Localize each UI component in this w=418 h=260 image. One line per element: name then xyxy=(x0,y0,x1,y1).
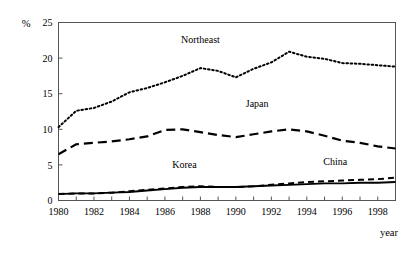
series-label-korea: Korea xyxy=(172,159,197,170)
chart-container: 0510152025198019821984198619881990199219… xyxy=(0,0,418,260)
y-axis-tick-label: 10 xyxy=(43,124,53,135)
series-line-northeast xyxy=(59,52,396,127)
x-axis-tick-label: 1982 xyxy=(84,206,104,217)
y-axis-tick-label: 0 xyxy=(48,195,53,206)
x-axis-tick-label: 1992 xyxy=(261,206,281,217)
line-chart: 0510152025198019821984198619881990199219… xyxy=(0,0,418,260)
x-axis-tick-label: 1994 xyxy=(297,206,317,217)
x-axis-tick-label: 1990 xyxy=(226,206,246,217)
x-axis-tick-label: 1988 xyxy=(190,206,210,217)
series-label-northeast: Northeast xyxy=(181,34,220,45)
series-line-china xyxy=(59,178,396,194)
series-line-korea xyxy=(59,182,396,194)
y-axis-tick-label: 25 xyxy=(43,17,53,28)
x-axis-tick-label: 1996 xyxy=(332,206,352,217)
y-axis-tick-label: 15 xyxy=(43,88,53,99)
x-axis-tick-label: 1986 xyxy=(155,206,175,217)
y-axis-tick-label: 20 xyxy=(43,53,53,64)
y-axis-title: % xyxy=(22,18,31,29)
series-label-china: China xyxy=(323,156,347,167)
x-axis-tick-label: 1980 xyxy=(49,206,69,217)
x-axis-tick-label: 1998 xyxy=(368,206,388,217)
series-line-japan xyxy=(59,129,396,154)
plot-frame xyxy=(59,23,396,201)
y-axis-tick-label: 5 xyxy=(48,160,53,171)
x-axis-title: year xyxy=(380,227,399,238)
series-label-japan: Japan xyxy=(246,98,269,109)
x-axis-tick-label: 1984 xyxy=(119,206,139,217)
